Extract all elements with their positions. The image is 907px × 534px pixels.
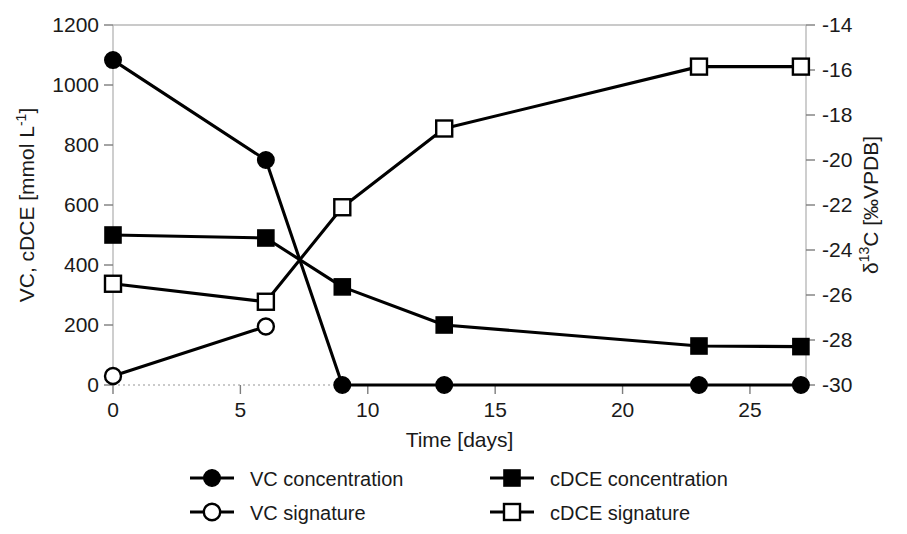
y-right-tick-label-4: -22 xyxy=(822,193,852,216)
y-axis-title-right-sup: 13 xyxy=(856,247,872,263)
y-left-tick-label-3: 600 xyxy=(64,193,99,216)
y-left-tick-label-0: 0 xyxy=(87,373,99,396)
x-tick-label-2: 10 xyxy=(356,398,379,421)
y-axis-title-right-delta: δ xyxy=(859,262,882,274)
legend-marker-0 xyxy=(204,470,220,486)
marker-vc-signature-0 xyxy=(105,368,121,384)
marker-cdce-concentration-1 xyxy=(258,230,274,246)
series-line-vc-concentration xyxy=(113,60,801,385)
y-right-tick-label-1: -28 xyxy=(822,328,852,351)
marker-cdce-signature-0 xyxy=(105,276,121,292)
marker-cdce-concentration-2 xyxy=(334,279,350,295)
marker-cdce-concentration-5 xyxy=(793,339,809,355)
marker-vc-signature-1 xyxy=(258,319,274,335)
y-left-tick-label-4: 800 xyxy=(64,133,99,156)
x-tick-label-4: 20 xyxy=(611,398,634,421)
x-tick-label-5: 25 xyxy=(738,398,761,421)
legend-marker-3 xyxy=(504,504,520,520)
y-axis-title-left: VC, cDCE [mmol L-1] xyxy=(13,108,38,303)
chart-canvas: 0510152025Time [days]0200400600800100012… xyxy=(0,0,907,534)
y-right-tick-label-2: -26 xyxy=(822,283,852,306)
y-right-tick-label-8: -14 xyxy=(822,13,853,36)
marker-cdce-signature-4 xyxy=(691,59,707,75)
marker-cdce-concentration-4 xyxy=(691,338,707,354)
marker-cdce-signature-3 xyxy=(436,121,452,137)
x-axis-title: Time [days] xyxy=(406,428,514,451)
legend-label-2: VC signature xyxy=(250,502,366,524)
marker-cdce-concentration-0 xyxy=(105,227,121,243)
y-axis-title-right-post: C [‰VPDB] xyxy=(859,136,882,247)
series-line-vc-signature xyxy=(113,327,266,377)
y-right-tick-label-5: -20 xyxy=(822,148,852,171)
y-axis-title-left-pre: VC, cDCE [mmol L xyxy=(15,126,38,302)
x-tick-label-0: 0 xyxy=(107,398,119,421)
legend-label-1: cDCE concentration xyxy=(550,468,728,490)
marker-cdce-signature-2 xyxy=(334,199,350,215)
marker-vc-concentration-2 xyxy=(334,377,350,393)
x-tick-label-3: 15 xyxy=(483,398,506,421)
y-axis-title-left-sup: -1 xyxy=(13,113,29,126)
y-axis-title-right: δ13C [‰VPDB] xyxy=(856,136,882,274)
legend-marker-1 xyxy=(504,470,520,486)
marker-vc-concentration-1 xyxy=(258,152,274,168)
marker-vc-concentration-5 xyxy=(793,377,809,393)
y-axis-title-left-post: ] xyxy=(15,108,38,114)
marker-vc-concentration-4 xyxy=(691,377,707,393)
legend-item-vc-concentration[interactable]: VC concentration xyxy=(190,468,403,490)
legend-label-0: VC concentration xyxy=(250,468,403,490)
series-line-cdce-concentration xyxy=(113,235,801,347)
y-left-tick-label-5: 1000 xyxy=(52,73,99,96)
y-right-tick-label-7: -16 xyxy=(822,58,852,81)
legend-item-vc-signature[interactable]: VC signature xyxy=(190,502,366,524)
marker-cdce-concentration-3 xyxy=(436,317,452,333)
y-right-tick-label-3: -24 xyxy=(822,238,853,261)
x-tick-label-1: 5 xyxy=(235,398,247,421)
y-left-tick-label-2: 400 xyxy=(64,253,99,276)
y-right-tick-label-0: -30 xyxy=(822,373,852,396)
marker-vc-concentration-3 xyxy=(436,377,452,393)
marker-vc-concentration-0 xyxy=(105,52,121,68)
y-left-tick-label-6: 1200 xyxy=(52,13,99,36)
legend-item-cdce-concentration[interactable]: cDCE concentration xyxy=(490,468,728,490)
y-left-tick-label-1: 200 xyxy=(64,313,99,336)
marker-cdce-signature-1 xyxy=(258,294,274,310)
legend-marker-2 xyxy=(204,504,220,520)
chart-figure: 0510152025Time [days]0200400600800100012… xyxy=(0,0,907,534)
legend-item-cdce-signature[interactable]: cDCE signature xyxy=(490,502,690,524)
marker-cdce-signature-5 xyxy=(793,59,809,75)
legend-label-3: cDCE signature xyxy=(550,502,690,524)
y-right-tick-label-6: -18 xyxy=(822,103,852,126)
series-line-cdce-signature xyxy=(113,67,801,302)
